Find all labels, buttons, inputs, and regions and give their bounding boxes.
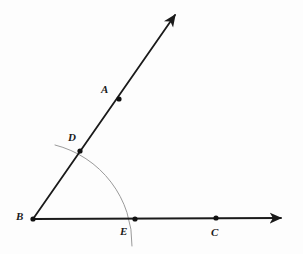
- point-label-a: A: [101, 84, 108, 95]
- point-dot-b: [30, 216, 35, 221]
- point-dot-c: [213, 215, 218, 220]
- point-label-d: D: [68, 132, 76, 143]
- point-label-c: C: [211, 227, 218, 238]
- point-dot-d: [77, 148, 82, 153]
- point-label-b: B: [16, 211, 23, 222]
- figure-canvas: [0, 0, 303, 254]
- point-label-e: E: [120, 226, 127, 237]
- point-dot-a: [116, 96, 121, 101]
- ray-bc: [33, 218, 281, 219]
- point-dot-e: [132, 216, 137, 221]
- ray-ba: [33, 15, 175, 219]
- geometry-figure: ABCDE: [0, 0, 303, 254]
- point-dots: [30, 96, 218, 221]
